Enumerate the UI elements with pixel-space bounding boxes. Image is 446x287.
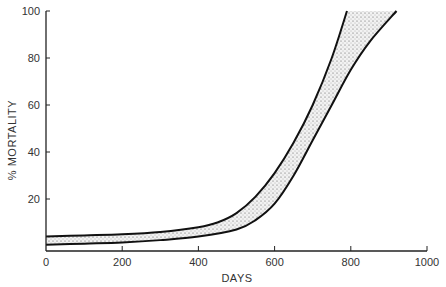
x-axis-title: DAYS [221,272,252,284]
y-tick-label: 40 [28,146,40,158]
x-tick-label: 800 [342,256,360,268]
y-tick-label: 20 [28,193,40,205]
upper-curve [46,11,347,237]
x-tick-label: 200 [113,256,131,268]
x-tick-label: 1000 [415,256,439,268]
mortality-band [46,11,397,245]
x-tick-label: 600 [265,256,283,268]
x-tick-label: 400 [189,256,207,268]
band-fill [46,11,397,245]
y-axis-title: % MORTALITY [6,100,18,180]
mortality-chart: 2040608010002004006008001000DAYS% MORTAL… [0,0,446,287]
y-tick-label: 100 [22,5,40,17]
x-tick-label: 0 [43,256,49,268]
y-tick-label: 60 [28,99,40,111]
y-tick-label: 80 [28,52,40,64]
